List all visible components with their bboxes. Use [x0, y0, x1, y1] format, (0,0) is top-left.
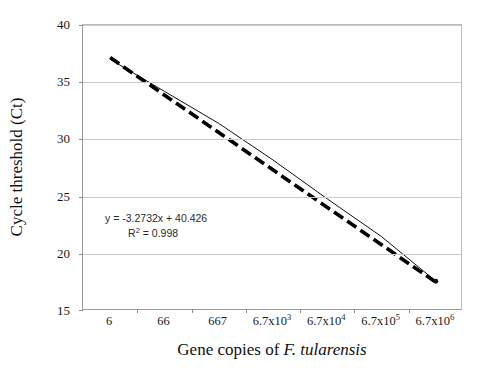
- y-tick-label-20: 20: [57, 246, 70, 259]
- y-tick-label-35: 35: [57, 75, 70, 88]
- x-tick-label-4: 6.7x104: [307, 315, 346, 328]
- r-squared-base: R: [128, 227, 136, 239]
- gridline-20: [83, 254, 461, 255]
- gridline-40: [83, 25, 461, 26]
- figure-container: Cycle threshold (Ct) 40 35 30 25 20 15: [0, 0, 480, 389]
- regression-equation-annotation: y = -3.2732x + 40.426 R2 = 0.998: [105, 211, 207, 241]
- x-tick-label-6-base: 6.7x10: [416, 314, 450, 328]
- x-axis-tick-labels: 6 66 667 6.7x103 6.7x104 6.7x105 6.7x106: [82, 313, 462, 335]
- y-tick-mark-35: [79, 82, 83, 83]
- y-tick-mark-40: [79, 25, 83, 26]
- plot-area: y = -3.2732x + 40.426 R2 = 0.998: [82, 24, 462, 310]
- data-point-marker-last: [433, 279, 438, 284]
- x-tick-label-4-exp: 4: [341, 312, 345, 322]
- x-tick-label-3-exp: 3: [287, 312, 291, 322]
- x-tick-label-0: 6: [106, 315, 112, 328]
- y-tick-mark-30: [79, 139, 83, 140]
- gridline-25: [83, 197, 461, 198]
- y-axis-tick-labels: 40 35 30 25 20 15: [0, 0, 76, 389]
- y-tick-mark-25: [79, 197, 83, 198]
- data-series-layer: [83, 25, 463, 311]
- y-tick-label-40: 40: [57, 18, 70, 31]
- x-axis-title-prefix: Gene copies of: [177, 340, 283, 359]
- x-tick-label-5: 6.7x105: [361, 315, 400, 328]
- x-tick-label-5-base: 6.7x10: [361, 314, 395, 328]
- y-tick-mark-15: [79, 310, 83, 311]
- x-tick-label-5-exp: 5: [396, 312, 400, 322]
- y-tick-label-15: 15: [57, 304, 70, 317]
- x-tick-label-2: 667: [208, 315, 227, 328]
- gridline-30: [83, 139, 461, 140]
- y-tick-label-30: 30: [57, 132, 70, 145]
- trendline: [110, 58, 436, 283]
- r-squared-line: R2 = 0.998: [105, 226, 207, 241]
- y-tick-mark-20: [79, 254, 83, 255]
- x-tick-label-0-base: 6: [106, 314, 112, 328]
- x-tick-label-3: 6.7x103: [253, 315, 292, 328]
- x-tick-label-6: 6.7x106: [416, 315, 455, 328]
- regression-equation-line: y = -3.2732x + 40.426: [105, 211, 207, 226]
- x-tick-label-2-base: 667: [208, 314, 227, 328]
- x-tick-label-1: 66: [157, 315, 170, 328]
- y-tick-label-25: 25: [57, 189, 70, 202]
- x-tick-label-6-exp: 6: [450, 312, 454, 322]
- x-axis-title: Gene copies of F. tularensis: [82, 340, 462, 360]
- x-tick-label-4-base: 6.7x10: [307, 314, 341, 328]
- x-tick-label-1-base: 66: [157, 314, 170, 328]
- x-axis-title-species: F. tularensis: [284, 340, 367, 359]
- gridline-35: [83, 82, 461, 83]
- r-squared-value: = 0.998: [140, 227, 178, 239]
- x-tick-label-3-base: 6.7x10: [253, 314, 287, 328]
